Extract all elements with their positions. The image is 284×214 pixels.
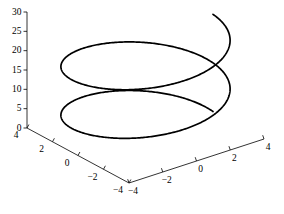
y-tick-label: 4 bbox=[14, 130, 19, 140]
z-tick-label: 10 bbox=[12, 84, 22, 94]
z-tick-label: 25 bbox=[12, 26, 22, 36]
plot-background bbox=[0, 0, 284, 214]
z-tick-label: 20 bbox=[12, 45, 22, 55]
y-tick-label: −4 bbox=[113, 185, 123, 195]
x-tick-label: 0 bbox=[198, 164, 203, 174]
y-tick-label: −2 bbox=[87, 172, 97, 182]
y-tick-label: 0 bbox=[65, 158, 70, 168]
x-tick-label: −4 bbox=[128, 186, 138, 196]
x-tick-label: 2 bbox=[232, 153, 237, 163]
plot-canvas: 051015202530420−2−4−4−2024 bbox=[0, 0, 284, 214]
x-tick-label: 4 bbox=[266, 142, 271, 152]
x-tick-label: −2 bbox=[162, 175, 172, 185]
z-tick-label: 5 bbox=[17, 103, 22, 113]
z-tick-label: 15 bbox=[12, 65, 22, 75]
y-tick-label: 2 bbox=[39, 144, 44, 154]
helix-3d-plot: 051015202530420−2−4−4−2024 bbox=[0, 0, 284, 214]
z-tick-label: 30 bbox=[12, 7, 22, 17]
